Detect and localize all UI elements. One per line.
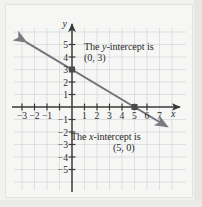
y-intercept-annotation-coord: (0, 3) <box>84 52 105 64</box>
x-tick-label-4: 4 <box>118 110 126 121</box>
x-tick-label-6: 6 <box>143 110 151 121</box>
x-annotation-prefix: The <box>71 131 89 142</box>
x-tick-label-1: 1 <box>81 110 89 121</box>
x-tick-label--3: −3 <box>16 110 28 121</box>
x-tick-label-3: 3 <box>106 110 114 121</box>
y-axis-label: y <box>63 18 67 29</box>
y-intercept-annotation-text: The y-intercept is <box>84 41 154 53</box>
y-intercept-marker <box>69 67 75 73</box>
y-tick-label--1: −1 <box>55 114 68 125</box>
x-tick-label-2: 2 <box>93 110 101 121</box>
x-tick-label--1: −1 <box>41 110 53 121</box>
y-tick-label--2: −2 <box>55 127 68 138</box>
y-annotation-prefix: The <box>84 41 102 52</box>
y-annotation-suffix: -intercept is <box>106 41 153 52</box>
x-tick-label--2: −2 <box>29 110 41 121</box>
x-intercept-annotation-coord: (5, 0) <box>113 142 134 154</box>
figure-container: −3 −2 −1 1 2 3 4 5 6 7 5 4 3 2 1 −1 −2 −… <box>0 0 202 207</box>
y-tick-label-3: 3 <box>59 64 68 75</box>
x-annotation-suffix: -intercept is <box>93 131 140 142</box>
y-tick-label-5: 5 <box>59 39 68 50</box>
x-intercept-annotation-text: The x-intercept is <box>71 131 141 143</box>
y-tick-label--5: −5 <box>55 164 68 175</box>
x-axis-label: x <box>171 108 175 119</box>
x-tick-label-7: 7 <box>156 110 164 121</box>
y-tick-label--4: −4 <box>55 152 68 163</box>
y-tick-label-4: 4 <box>59 52 68 63</box>
y-tick-label-2: 2 <box>59 77 68 88</box>
y-tick-label-1: 1 <box>59 89 68 100</box>
x-tick-label-5: 5 <box>131 110 139 121</box>
coordinate-plane <box>0 0 202 207</box>
y-tick-label--3: −3 <box>55 139 68 150</box>
